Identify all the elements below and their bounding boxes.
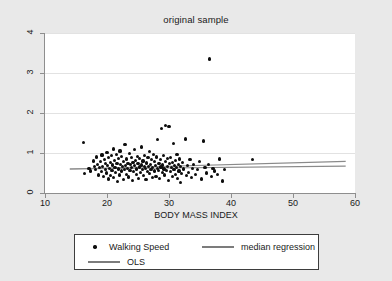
- data-point: [146, 156, 149, 159]
- data-point: [184, 137, 187, 140]
- data-point: [157, 169, 160, 172]
- data-point: [180, 172, 183, 175]
- y-tick-label: 2: [25, 105, 35, 119]
- data-point: [200, 177, 203, 180]
- data-point: [92, 159, 95, 162]
- data-point: [118, 149, 121, 152]
- x-tick-label: 50: [281, 198, 305, 208]
- data-point: [191, 167, 194, 170]
- x-axis-line: [44, 193, 356, 194]
- data-point: [100, 153, 103, 156]
- data-point: [167, 179, 170, 182]
- legend-item-median-regression: median regression: [201, 239, 315, 255]
- legend-label: Walking Speed: [103, 242, 169, 252]
- y-tick-mark: [40, 113, 44, 114]
- data-point: [118, 173, 121, 176]
- gridline: [45, 153, 355, 154]
- line-sample-icon: [87, 261, 121, 262]
- data-point: [163, 173, 166, 176]
- data-point: [97, 173, 100, 176]
- y-tick-mark: [40, 73, 44, 74]
- data-point: [128, 169, 131, 172]
- y-tick-mark: [40, 193, 44, 194]
- data-point: [105, 171, 108, 174]
- legend-item-ols: OLS: [87, 254, 145, 270]
- data-point: [128, 152, 131, 155]
- data-point: [154, 175, 157, 178]
- data-point: [139, 171, 142, 174]
- data-point: [103, 158, 106, 161]
- data-point: [140, 145, 143, 148]
- y-tick-label: 0: [25, 185, 35, 199]
- data-point: [95, 155, 98, 158]
- legend-label: OLS: [121, 257, 145, 267]
- y-tick-label: 4: [25, 25, 35, 39]
- data-point: [203, 166, 206, 169]
- x-tick-label: 10: [33, 198, 57, 208]
- x-tick-label: 40: [219, 198, 243, 208]
- y-tick-mark: [40, 33, 44, 34]
- data-point: [110, 169, 113, 172]
- data-point: [216, 173, 219, 176]
- data-point: [123, 143, 126, 146]
- y-tick-mark: [40, 153, 44, 154]
- data-point: [112, 147, 115, 150]
- data-point: [127, 175, 130, 178]
- data-point: [169, 170, 172, 173]
- data-point: [105, 151, 108, 154]
- data-point: [141, 159, 144, 162]
- data-point: [175, 153, 178, 156]
- data-point: [208, 57, 211, 60]
- scatter-marker-icon: [87, 245, 103, 248]
- data-point: [210, 175, 213, 178]
- chart-title: original sample: [0, 14, 392, 25]
- data-point: [115, 162, 118, 165]
- data-point: [181, 161, 184, 164]
- legend-label: median regression: [235, 242, 315, 252]
- data-point: [115, 153, 118, 156]
- x-axis-title: BODY MASS INDEX: [0, 210, 392, 220]
- data-point: [113, 166, 116, 169]
- data-point: [144, 178, 147, 181]
- data-point: [202, 139, 205, 142]
- data-point: [117, 157, 120, 160]
- data-point: [174, 173, 177, 176]
- data-point: [221, 179, 224, 182]
- data-point: [179, 181, 182, 184]
- line-sample-icon: [201, 246, 235, 247]
- y-tick-label: 3: [25, 65, 35, 79]
- data-point: [82, 141, 85, 144]
- chart-legend: Walking Speed median regression OLS: [74, 234, 319, 270]
- gridline: [45, 73, 355, 74]
- y-axis-line: [44, 33, 45, 194]
- data-point: [171, 175, 174, 178]
- plot-area: [45, 33, 355, 193]
- data-point: [137, 177, 140, 180]
- data-point: [155, 155, 158, 158]
- data-point: [153, 169, 156, 172]
- data-point: [151, 176, 154, 179]
- data-point: [166, 157, 169, 160]
- x-tick-label: 30: [157, 198, 181, 208]
- x-tick-label: 60: [343, 198, 367, 208]
- data-point: [198, 160, 201, 163]
- gridline: [45, 33, 355, 34]
- scatter-plot-figure: original sample BODY MASS INDEX Walking …: [0, 0, 392, 281]
- data-point: [167, 125, 170, 128]
- data-point: [160, 127, 163, 130]
- data-point: [164, 160, 167, 163]
- data-point: [135, 173, 138, 176]
- gridline: [45, 113, 355, 114]
- legend-item-walking-speed: Walking Speed: [87, 239, 169, 255]
- x-tick-label: 20: [95, 198, 119, 208]
- data-point: [185, 174, 188, 177]
- data-point: [172, 142, 175, 145]
- y-tick-label: 1: [25, 145, 35, 159]
- data-point: [178, 157, 181, 160]
